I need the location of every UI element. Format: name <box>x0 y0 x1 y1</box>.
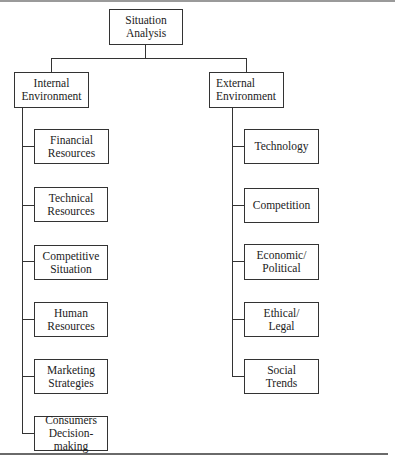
connector-technical <box>22 205 34 206</box>
connector-technology <box>232 146 244 147</box>
internal-trunk <box>22 108 23 434</box>
connector-economic <box>232 261 244 262</box>
connector-social <box>232 376 244 377</box>
node-ethical-legal: Ethical/ Legal <box>244 302 319 337</box>
node-technology: Technology <box>244 129 319 164</box>
node-financial-resources: Financial Resources <box>34 129 109 164</box>
connector-consumers <box>22 433 34 434</box>
node-external-environment: External Environment <box>209 72 284 108</box>
connector-ethical <box>232 319 244 320</box>
node-competitive-situation: Competitive Situation <box>34 245 108 280</box>
connector-financial <box>22 146 34 147</box>
node-competition: Competition <box>244 188 319 223</box>
node-consumers-decision-making: Consumers Decision-making <box>34 416 108 451</box>
node-social-trends: Social Trends <box>244 359 319 394</box>
connector-to-internal <box>51 58 52 72</box>
connector-marketing <box>22 376 34 377</box>
connector-root-horizontal <box>51 58 247 59</box>
connector-to-external <box>246 58 247 72</box>
node-internal-environment: Internal Environment <box>14 72 89 108</box>
node-technical-resources: Technical Resources <box>34 187 108 222</box>
external-trunk <box>232 108 233 376</box>
connector-competitive <box>22 261 34 262</box>
node-marketing-strategies: Marketing Strategies <box>34 359 108 394</box>
node-economic-political: Economic/ Political <box>244 244 319 280</box>
node-situation-analysis: Situation Analysis <box>109 9 183 45</box>
bottom-rule <box>0 453 388 455</box>
connector-human <box>22 319 34 320</box>
node-human-resources: Human Resources <box>34 302 108 337</box>
top-rule <box>0 0 395 2</box>
connector-root-down <box>145 45 146 58</box>
connector-competition <box>232 205 244 206</box>
